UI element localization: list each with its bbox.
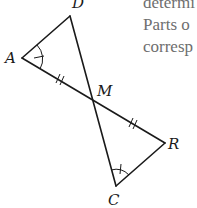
side-text-line-3: corresp xyxy=(143,36,195,58)
tick-marks-AM xyxy=(56,74,64,85)
segment-AR xyxy=(22,58,165,143)
segment-AD xyxy=(22,16,70,58)
label-R: R xyxy=(167,135,179,153)
label-D: D xyxy=(71,0,84,12)
side-text-line-1: determi xyxy=(143,0,195,14)
label-A: A xyxy=(3,49,16,67)
segment-RC xyxy=(116,143,165,186)
label-C: C xyxy=(108,191,120,208)
side-text-line-2: Parts o xyxy=(143,14,195,36)
label-M: M xyxy=(96,82,113,100)
angle-mark-C xyxy=(111,164,129,175)
side-text: determi Parts o corresp xyxy=(143,0,195,58)
